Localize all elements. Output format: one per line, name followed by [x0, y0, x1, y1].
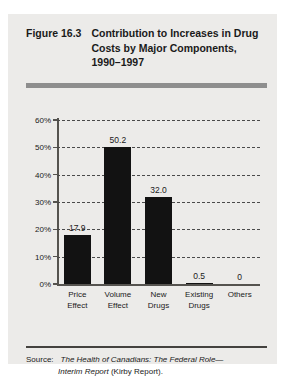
source-label: Source:	[26, 354, 61, 366]
figure-header: Figure 16.3 Contribution to Increases in…	[26, 26, 266, 70]
gridline	[57, 120, 260, 121]
bar-value-label: 0.5	[193, 271, 205, 281]
figure-number: Figure 16.3	[26, 26, 91, 41]
figure-title: Contribution to Increases in Drug Costs …	[91, 26, 266, 70]
figure-panel: Figure 16.3 Contribution to Increases in…	[8, 14, 277, 364]
y-axis-tick-label: 10%	[35, 252, 51, 261]
x-axis-label: Price Effect	[54, 290, 100, 311]
y-axis-tick-label: 30%	[35, 198, 51, 207]
source-title-line2: Interim Report	[58, 367, 109, 376]
source-trailing: (Kirby Report).	[109, 367, 163, 376]
y-axis-line	[57, 118, 59, 284]
bar-value-label: 17.9	[69, 223, 86, 233]
bar	[104, 147, 131, 284]
y-axis-tick-label: 20%	[35, 225, 51, 234]
source-note: Source: The Health of Canadians: The Fed…	[26, 354, 267, 378]
y-axis-tick	[53, 174, 57, 176]
x-axis-label: Existing Drugs	[176, 290, 222, 311]
bar	[186, 283, 213, 284]
source-line-2: Interim Report (Kirby Report).	[26, 366, 267, 378]
y-axis-tick	[53, 256, 57, 258]
x-axis-line	[57, 284, 260, 286]
source-title-line1: The Health of Canadians: The Federal Rol…	[61, 354, 224, 366]
source-line-1: Source: The Health of Canadians: The Fed…	[26, 354, 267, 366]
plot-area: 0%10%20%30%40%50%60% 17.950.232.00.50 Pr…	[57, 120, 260, 284]
bar-value-label: 32.0	[150, 185, 167, 195]
x-axis-label: Volume Effect	[95, 290, 141, 311]
source-rule-divider	[26, 346, 267, 348]
x-axis-label: Others	[217, 290, 263, 301]
y-axis-tick	[53, 201, 57, 203]
header-rule-divider	[26, 83, 267, 88]
bar-value-label: 0	[237, 272, 242, 282]
y-axis-tick	[53, 283, 57, 285]
bar-chart: 0%10%20%30%40%50%60% 17.950.232.00.50 Pr…	[28, 102, 268, 317]
y-axis-tick-label: 40%	[35, 170, 51, 179]
x-axis-label: New Drugs	[136, 290, 182, 311]
gridline	[57, 175, 260, 176]
y-axis-tick	[53, 229, 57, 231]
gridline	[57, 147, 260, 148]
y-axis-tick-label: 60%	[35, 116, 51, 125]
bar	[64, 235, 91, 284]
y-axis-tick	[53, 147, 57, 149]
y-axis-tick-label: 50%	[35, 143, 51, 152]
bar-value-label: 50.2	[110, 135, 127, 145]
y-axis-tick-label: 0%	[39, 280, 51, 289]
y-axis-tick	[53, 119, 57, 121]
bar	[145, 197, 172, 284]
